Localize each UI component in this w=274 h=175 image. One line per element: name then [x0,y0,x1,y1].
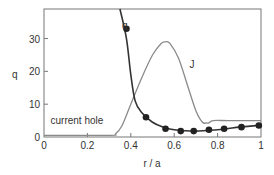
y-tick-label: 20 [29,66,41,77]
q-data-point [238,124,245,131]
x-tick-label: 0.4 [124,140,138,151]
current-hole-label: current hole [51,115,104,126]
y-tick-label: 30 [29,34,41,45]
j-curve-label: J [189,59,194,70]
q-data-point [190,128,197,135]
x-tick-label: 1 [258,140,264,151]
x-tick-label: 0.2 [80,140,94,151]
y-tick-label: 0 [34,132,40,143]
q-data-point [143,114,150,121]
y-axis: 0102030 [29,34,48,143]
q-data-point [256,122,263,129]
q-data-point [177,128,184,135]
y-tick-label: 10 [29,99,41,110]
q-data-point [221,125,228,132]
q-series-markers [123,25,262,134]
x-tick-label: 0 [41,140,47,151]
q-j-profile-chart: 0102030 00.20.40.60.81 q J current hole … [0,0,274,175]
y-axis-label: q [12,69,18,80]
x-tick-label: 0.6 [167,140,181,151]
q-curve-label: q [122,20,128,31]
q-data-point [162,125,169,132]
q-data-point [206,126,213,133]
x-tick-label: 0.8 [211,140,225,151]
x-axis-label: r / a [143,158,161,169]
